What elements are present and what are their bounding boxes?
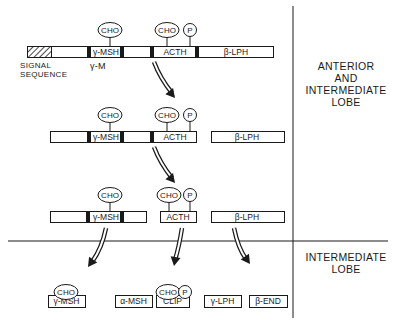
region-line: LOBE: [300, 96, 392, 108]
segment-label-gamma-msh: γ-MSH: [93, 47, 119, 57]
cho-label: CHO: [57, 288, 75, 297]
region-line: INTERMEDIATE: [300, 251, 392, 263]
arrow-row1-to-row2: [154, 62, 179, 101]
segment-label-beta-lph: β-LPH: [235, 212, 259, 222]
phosphate-group: P: [184, 24, 197, 47]
final-products: γ-MSHα-MSHCLIPγ-LPHβ-ENDCHOCHOP: [49, 285, 288, 308]
cleavage-site: [120, 47, 124, 58]
cho-label: CHO: [158, 111, 176, 120]
cho-label: CHO: [158, 26, 176, 35]
segment-label-gamma-msh: γ-MSH: [93, 132, 119, 142]
cho-label: CHO: [101, 26, 119, 35]
phosphate-label: P: [187, 111, 192, 120]
arrow-row2-to-row3: [154, 147, 179, 186]
segment-label-acth: ACTH: [163, 132, 186, 142]
cleavage-site: [120, 132, 124, 143]
phosphate-label: P: [187, 26, 192, 35]
cleavage-site: [120, 212, 124, 223]
cho-group: CHO: [155, 108, 179, 132]
signal-line: SIGNAL: [20, 61, 67, 70]
precursor-rows: γ-MSHACTHβ-LPHCHOCHOPγ-MSHACTHβ-LPHCHOCH…: [28, 23, 285, 223]
cho-group: CHO: [155, 23, 179, 47]
cleavage-site: [150, 132, 154, 143]
cleavage-site: [87, 132, 91, 143]
phosphate-group: P: [179, 286, 192, 299]
phosphate-group: P: [184, 109, 197, 132]
cho-group: CHO: [157, 188, 181, 212]
row-intermediate-2: γ-MSHACTHβ-LPHCHOCHOP: [51, 188, 285, 223]
processing-arrows: [84, 62, 254, 270]
product-alpha-msh: α-MSH: [116, 296, 153, 308]
cho-group: CHO: [98, 23, 122, 47]
region-line: INTERMEDIATE: [300, 84, 392, 96]
segment-label-beta-lph: β-LPH: [235, 132, 259, 142]
arrow-gamma-msh: [84, 228, 106, 270]
phosphate-group: P: [184, 189, 197, 212]
row-intermediate-1: γ-MSHACTHβ-LPHCHOCHOP: [51, 108, 285, 143]
gamma-m-label: γ-M: [90, 62, 106, 71]
segment-label-acth: ACTH: [163, 47, 186, 57]
signal-sequence-hatch: [28, 47, 52, 58]
product-label: β-END: [255, 296, 281, 306]
arrow-head: [169, 256, 180, 267]
cho-label: CHO: [101, 191, 119, 200]
cho-group: CHO: [98, 188, 122, 212]
phosphate-label: P: [187, 191, 192, 200]
segment-label-beta-lph: β-LPH: [224, 47, 248, 57]
segment-label-acth: ACTH: [166, 212, 189, 222]
region-line: ANTERIOR: [300, 60, 392, 72]
anterior-intermediate-lobe-label: ANTERIOR AND INTERMEDIATE LOBE: [300, 60, 392, 108]
product-gamma-lph: γ-LPH: [205, 296, 242, 308]
cleavage-site: [195, 47, 199, 58]
signal-line: SEQUENCE: [20, 70, 67, 79]
row-precursor: γ-MSHACTHβ-LPHCHOCHOP: [28, 23, 274, 58]
cleavage-site: [87, 47, 91, 58]
cleavage-site: [86, 212, 90, 223]
phosphate-label: P: [182, 288, 187, 297]
product-label: γ-LPH: [211, 296, 235, 306]
cho-label: CHO: [159, 288, 177, 297]
region-line: LOBE: [300, 263, 392, 275]
product-beta-end: β-END: [250, 296, 288, 308]
cho-label: CHO: [101, 111, 119, 120]
region-line: AND: [300, 72, 392, 84]
cho-group: CHO: [98, 108, 122, 132]
signal-sequence-label: SIGNAL SEQUENCE: [20, 61, 67, 79]
cleavage-site: [150, 47, 154, 58]
cho-group: CHO: [156, 285, 180, 300]
cho-group: CHO: [54, 285, 78, 300]
arrow-beta-lph: [234, 228, 254, 267]
arrow-acth: [169, 228, 182, 267]
product-label: α-MSH: [120, 296, 147, 306]
pomc-processing-diagram: γ-MSHACTHβ-LPHCHOCHOPγ-MSHACTHβ-LPHCHOCH…: [0, 0, 393, 323]
cho-label: CHO: [160, 191, 178, 200]
segment-label-gamma-msh: γ-MSH: [93, 212, 119, 222]
intermediate-lobe-label: INTERMEDIATE LOBE: [300, 251, 392, 275]
